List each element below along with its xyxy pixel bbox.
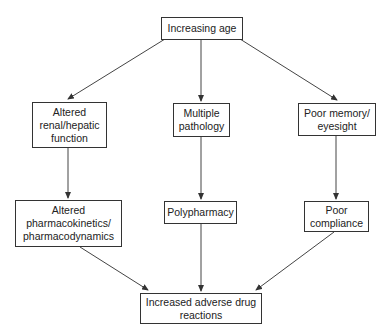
node-altered-renal-hepatic-function: Altered renal/hepatic function bbox=[32, 102, 107, 148]
node-poor-memory-eyesight: Poor memory/ eyesight bbox=[298, 103, 376, 136]
arrow-compliance-to-outcome bbox=[256, 232, 334, 290]
node-increasing-age: Increasing age bbox=[161, 17, 243, 40]
connector-arrows bbox=[0, 0, 388, 335]
node-polypharmacy: Polypharmacy bbox=[164, 201, 237, 224]
node-increased-adverse-drug-reactions: Increased adverse drug reactions bbox=[140, 293, 262, 324]
flowchart-diagram: Increasing age Altered renal/hepatic fun… bbox=[0, 0, 388, 335]
node-multiple-pathology: Multiple pathology bbox=[173, 103, 230, 137]
node-altered-pharmacokinetics: Altered pharmacokinetics/ pharmacodynami… bbox=[15, 200, 122, 247]
arrow-age-to-memory bbox=[240, 39, 337, 100]
arrow-age-to-renal bbox=[68, 39, 165, 99]
node-poor-compliance: Poor compliance bbox=[304, 201, 369, 232]
arrow-pk-to-outcome bbox=[80, 247, 148, 290]
